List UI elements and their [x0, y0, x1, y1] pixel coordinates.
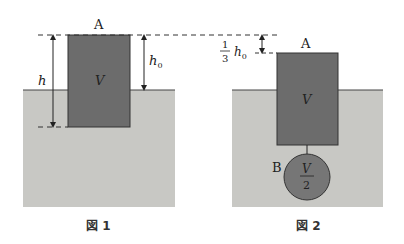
offset-h0: h0	[234, 45, 247, 61]
ball-frac-num: V	[302, 162, 312, 176]
label-V-2: V	[302, 92, 313, 107]
label-A-1: A	[93, 17, 104, 32]
label-V-1: V	[95, 73, 106, 88]
offset-frac-den: 3	[222, 53, 228, 64]
label-h: h	[38, 73, 46, 88]
offset-frac-num: 1	[222, 39, 228, 50]
label-h0: h0	[149, 53, 162, 70]
ball-B	[284, 154, 330, 200]
buoyancy-diagram: A V h h0 図 1 1 3 h0 A V B V 2 図 2	[0, 0, 404, 244]
ball-frac-den: 2	[303, 179, 310, 192]
label-B: B	[272, 160, 282, 175]
label-A-2: A	[300, 36, 311, 51]
caption-figure-2: 図 2	[296, 219, 321, 233]
figure-2: 1 3 h0 A V B V 2 図 2	[220, 36, 383, 233]
caption-figure-1: 図 1	[86, 219, 111, 233]
